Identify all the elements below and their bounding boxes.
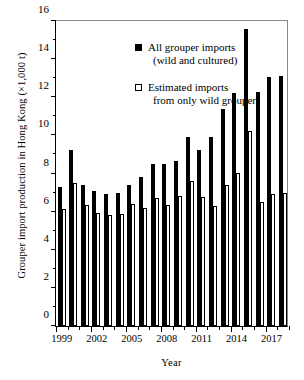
- bar-wild-imports: [131, 204, 135, 326]
- bar-wild-imports: [236, 173, 240, 326]
- x-tick-label: 2008: [156, 333, 177, 344]
- y-tick-label: 10: [38, 117, 49, 129]
- x-tick: [254, 326, 255, 330]
- x-tick: [126, 326, 127, 332]
- legend-item-all-imports: All grouper imports (wild and cultured): [135, 41, 295, 68]
- x-tick: [161, 326, 162, 332]
- x-tick-label: 2017: [261, 333, 282, 344]
- bar-wild-imports: [108, 215, 112, 326]
- bar-wild-imports: [85, 205, 89, 326]
- x-tick: [289, 326, 290, 330]
- y-tick: [51, 249, 56, 250]
- x-tick: [207, 326, 208, 330]
- bar-wild-imports: [201, 197, 205, 326]
- x-axis-title: Year: [55, 357, 288, 368]
- bar-wild-imports: [213, 206, 217, 326]
- y-tick-minor: [53, 39, 56, 40]
- bar-wild-imports: [225, 185, 229, 326]
- x-tick-label: 2014: [226, 333, 247, 344]
- chart-figure: Grouper import production in Hong Kong (…: [0, 0, 304, 380]
- bar-wild-imports: [178, 196, 182, 326]
- legend-label-line1: Estimated imports: [148, 81, 228, 93]
- y-tick-minor: [53, 268, 56, 269]
- x-tick-label: 2005: [121, 333, 142, 344]
- y-tick: [51, 173, 56, 174]
- y-tick-label: 4: [44, 232, 50, 244]
- x-tick: [138, 326, 139, 330]
- y-tick: [51, 287, 56, 288]
- x-tick: [79, 326, 80, 330]
- x-tick: [242, 326, 243, 330]
- x-tick: [114, 326, 115, 330]
- bar-wild-imports: [271, 194, 275, 326]
- y-tick: [51, 20, 56, 21]
- bar-pair: [58, 21, 66, 326]
- x-tick: [103, 326, 104, 330]
- x-tick: [277, 326, 278, 330]
- bar-wild-imports: [166, 205, 170, 326]
- bar-wild-imports: [190, 181, 194, 326]
- x-tick-label: 2002: [86, 333, 107, 344]
- y-tick-minor: [53, 192, 56, 193]
- bar-wild-imports: [62, 209, 66, 326]
- y-tick-label: 16: [38, 3, 49, 15]
- bar-wild-imports: [73, 183, 77, 326]
- bar-wild-imports: [120, 214, 124, 326]
- y-tick: [51, 211, 56, 212]
- bar-pair: [116, 21, 124, 326]
- x-tick: [196, 326, 197, 332]
- bar-wild-imports: [283, 193, 287, 326]
- legend-label-line1: All grouper imports: [148, 41, 235, 53]
- bar-wild-imports: [96, 213, 100, 326]
- bar-pair: [81, 21, 89, 326]
- bar-wild-imports: [248, 131, 252, 326]
- x-tick: [149, 326, 150, 330]
- y-tick-label: 8: [44, 155, 50, 167]
- x-tick: [266, 326, 267, 332]
- x-tick: [91, 326, 92, 332]
- legend-item-wild-imports: Estimated imports from only wild grouper…: [135, 81, 295, 108]
- x-tick: [173, 326, 174, 330]
- y-tick-label: 2: [44, 270, 50, 282]
- y-tick: [51, 134, 56, 135]
- x-tick-label: 2011: [191, 333, 212, 344]
- x-tick: [184, 326, 185, 330]
- x-tick: [219, 326, 220, 330]
- bar-pair: [104, 21, 112, 326]
- y-tick-label: 12: [38, 79, 49, 91]
- x-tick: [56, 326, 57, 332]
- chart-legend: All grouper imports (wild and cultured) …: [135, 41, 295, 108]
- y-tick-minor: [53, 77, 56, 78]
- bar-pair: [92, 21, 100, 326]
- bar-wild-imports: [260, 202, 264, 326]
- bar-pair: [69, 21, 77, 326]
- filled-square-icon: [135, 44, 142, 51]
- y-tick-label: 6: [44, 194, 50, 206]
- y-tick: [51, 96, 56, 97]
- x-tick-label: 1999: [51, 333, 72, 344]
- bar-wild-imports: [155, 198, 159, 326]
- legend-label-line2: (wild and cultured): [148, 54, 295, 67]
- y-tick-minor: [53, 306, 56, 307]
- x-tick: [68, 326, 69, 330]
- y-tick-minor: [53, 230, 56, 231]
- bar-wild-imports: [143, 208, 147, 326]
- plot-area: 0246810121416 19992002200520082011201420…: [55, 20, 288, 327]
- x-tick: [231, 326, 232, 332]
- y-tick-minor: [53, 115, 56, 116]
- y-tick-label: 14: [38, 41, 49, 53]
- y-tick-label: 0: [44, 308, 50, 320]
- y-tick: [51, 58, 56, 59]
- y-tick-minor: [53, 153, 56, 154]
- legend-label-line2: from only wild groupers: [148, 94, 295, 107]
- y-axis-title: Grouper import production in Hong Kong (…: [16, 16, 27, 316]
- open-square-icon: [135, 84, 142, 91]
